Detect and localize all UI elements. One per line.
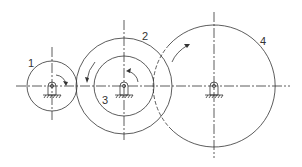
gear-3-label: 3 bbox=[102, 94, 108, 106]
arrowhead-2 bbox=[85, 77, 89, 83]
bearing-1 bbox=[43, 82, 61, 98]
diagram-canvas: 1 2 3 4 bbox=[0, 0, 302, 167]
gear-train-diagram: 1 2 3 4 bbox=[0, 0, 302, 167]
gear-4-label: 4 bbox=[260, 35, 266, 47]
rotation-arrow-2 bbox=[87, 62, 95, 80]
gear-1-label: 1 bbox=[28, 57, 34, 69]
gear-2-label: 2 bbox=[142, 30, 148, 42]
rotation-arrow-4 bbox=[172, 45, 188, 62]
arrowhead-1 bbox=[63, 81, 68, 86]
